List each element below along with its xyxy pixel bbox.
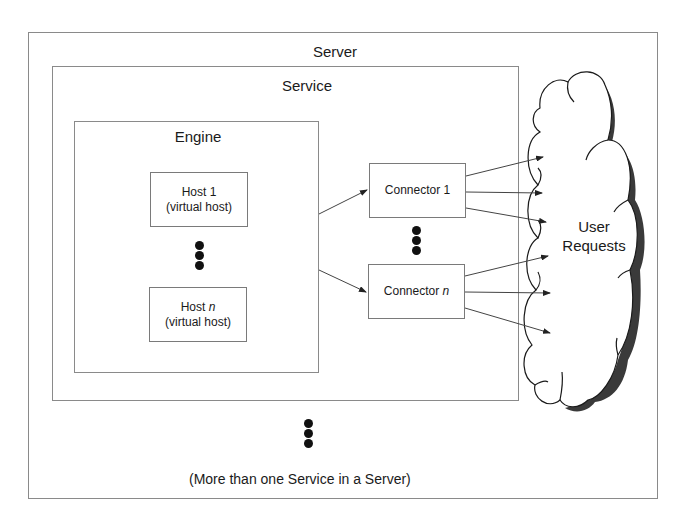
arrow-engine-connector-n xyxy=(319,270,366,292)
cloud-label-line-1: User xyxy=(556,217,632,236)
cloud-label: User Requests xyxy=(556,217,632,255)
arrow-connector-1-request-2 xyxy=(466,192,542,193)
arrow-engine-connector-1 xyxy=(319,190,367,214)
connections-layer xyxy=(0,0,688,519)
cloud-label-line-2: Requests xyxy=(556,236,632,255)
